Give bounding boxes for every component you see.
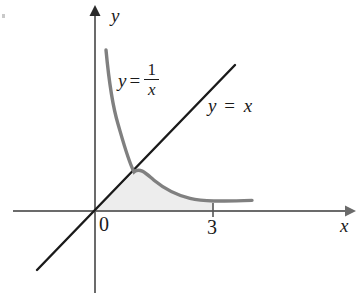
plot-canvas <box>0 0 359 293</box>
curve-identity-label: y = x <box>208 96 252 115</box>
curve-identity-rhs: x <box>244 95 252 116</box>
fraction-denominator: x <box>146 80 158 98</box>
fraction-numerator: 1 <box>145 61 158 79</box>
curve-identity-equals: = <box>224 95 235 116</box>
curve-reciprocal-label: y = 1 x <box>118 62 159 99</box>
x-axis-label: x <box>340 216 348 235</box>
figure-container: y x 0 3 y = 1 x y = x <box>0 0 359 293</box>
fraction-one-over-x: 1 x <box>144 61 159 98</box>
origin-label: 0 <box>99 214 109 234</box>
curve-identity-lhs: y <box>208 95 216 116</box>
y-axis-arrowhead <box>90 5 101 16</box>
x-tick-label-3: 3 <box>207 217 217 237</box>
curve-reciprocal-equals: = <box>129 71 140 90</box>
curve-reciprocal-lhs: y <box>118 71 126 90</box>
y-axis-label: y <box>111 6 119 25</box>
